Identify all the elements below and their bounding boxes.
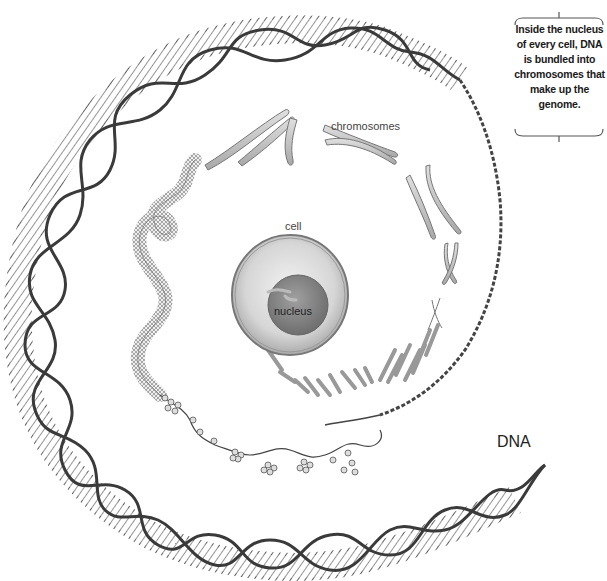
cell-label: cell	[285, 220, 302, 232]
nucleus-label: nucleus	[274, 305, 312, 317]
cell-illustration	[232, 235, 348, 355]
callout-text: Inside the nucleus of every cell, DNA is…	[512, 22, 607, 112]
dna-label: DNA	[497, 433, 531, 451]
chromosomes-group	[205, 110, 461, 395]
chromosomes-label: chromosomes	[331, 120, 400, 132]
callout-bracket-bottom	[513, 128, 605, 144]
